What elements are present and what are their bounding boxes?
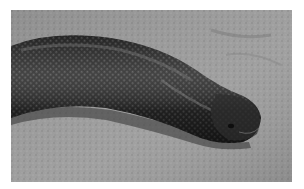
snake-eye <box>228 124 234 128</box>
snake-photo <box>11 10 292 182</box>
photo-frame <box>11 10 292 182</box>
